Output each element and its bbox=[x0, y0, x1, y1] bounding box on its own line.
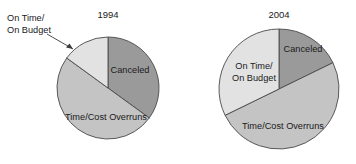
slice-label-overruns-2004: Time/Cost Overruns bbox=[242, 121, 324, 131]
pie-chart-figure: 1994 Canceled Time/Cost Overruns On Time… bbox=[0, 0, 356, 164]
callout-label-line2-1994: On Budget bbox=[7, 25, 51, 35]
callout-on-time-on-budget-1994: On Time/ On Budget bbox=[7, 13, 73, 49]
slice-label-on-time-line1-2004: On Time/ bbox=[235, 61, 273, 71]
pie-chart-1994: 1994 Canceled Time/Cost Overruns On Time… bbox=[7, 9, 159, 139]
callout-arrowhead-icon-1994 bbox=[66, 44, 73, 50]
slice-label-on-time-line2-2004: On Budget bbox=[232, 73, 276, 83]
year-label-2004: 2004 bbox=[268, 9, 289, 20]
pie-chart-2004: 2004 Canceled Time/Cost Overruns On Time… bbox=[219, 9, 339, 149]
slice-label-overruns-1994: Time/Cost Overruns bbox=[65, 112, 147, 122]
year-label-1994: 1994 bbox=[97, 9, 118, 20]
slice-label-canceled-2004: Canceled bbox=[284, 44, 323, 54]
callout-label-line1-1994: On Time/ bbox=[7, 13, 45, 23]
charts-canvas: 1994 Canceled Time/Cost Overruns On Time… bbox=[0, 0, 356, 164]
slice-label-canceled-1994: Canceled bbox=[111, 65, 150, 75]
